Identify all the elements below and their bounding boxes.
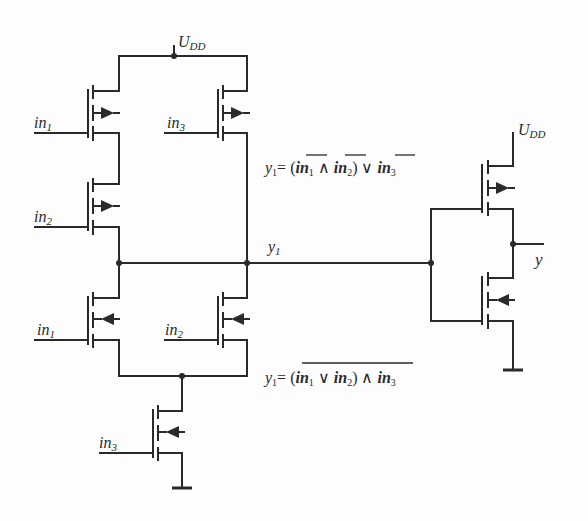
nmos-in2 — [165, 263, 249, 376]
inverter-nmos — [482, 273, 523, 370]
nmos-in1 — [35, 263, 119, 376]
inverter-pmos — [482, 133, 514, 278]
label-in1-pmos: in1 — [34, 114, 52, 133]
pmos-in3 — [165, 86, 249, 263]
equation-bottom: y1= (in1 ∨ in2) ∧ in3 — [263, 363, 413, 388]
junction-dot — [171, 53, 177, 59]
label-in3-pmos: in3 — [167, 114, 185, 133]
schematic-svg: UDD UDD in1 in2 in3 in1 in2 in3 y1 y y1=… — [0, 0, 588, 521]
svg-text:y1= (in1 ∨ in2) ∧ in3: y1= (in1 ∨ in2) ∧ in3 — [263, 369, 396, 388]
label-output-y: y — [533, 250, 543, 269]
label-in3-nmos: in3 — [99, 434, 117, 453]
label-y1-node: y1 — [266, 238, 281, 257]
inverter-output — [510, 241, 543, 247]
equation-top: y1= (in1 ∧ in2) ∨ in3 — [263, 155, 415, 178]
supply-label-inverter: UDD — [518, 121, 546, 140]
pmos-in1 — [35, 86, 119, 184]
label-in1-nmos: in1 — [37, 321, 55, 340]
node-y1-wire — [116, 260, 434, 266]
label-in2-pmos: in2 — [34, 208, 52, 227]
circuit-diagram: UDD UDD in1 in2 in3 in1 in2 in3 y1 y y1=… — [0, 0, 588, 521]
pulldown-join — [119, 373, 247, 411]
supply-label-top: UDD — [178, 33, 206, 52]
inverter-input — [431, 209, 482, 321]
label-in2-nmos: in2 — [165, 321, 183, 340]
svg-text:y1= (in1 ∧ in2) ∨ in3: y1= (in1 ∧ in2) ∨ in3 — [263, 159, 396, 178]
supply-rail-top — [119, 46, 247, 91]
